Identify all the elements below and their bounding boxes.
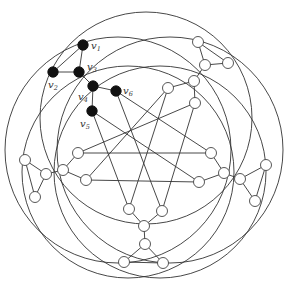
vertex-l2 [30,192,41,203]
vertex-l3 [41,169,52,180]
vertex-r4 [219,168,230,179]
vertex-l4 [58,165,69,176]
edge-t5-l6 [86,88,168,180]
edge-t5-b5 [129,88,168,209]
label-v5: v5 [80,118,90,131]
graph-diagram: v1v2v3v4v5v6 [0,0,293,300]
vertex-r3 [235,174,246,185]
vertex-l5 [73,148,84,159]
vertex-b1 [119,257,130,268]
vertex-t1 [193,37,204,48]
vertex-l6 [81,175,92,186]
vertex-t2 [223,58,234,69]
vertex-b4 [139,221,150,232]
vertex-v2 [48,67,58,77]
vertex-t4 [189,76,200,87]
label-v1: v1 [91,40,101,53]
label-v4: v4 [78,91,88,104]
enclosing-circle-1 [40,12,252,224]
label-v2: v2 [48,79,58,92]
vertex-b2 [158,258,169,269]
vertex-b6 [157,206,168,217]
vertex-t3 [200,60,211,71]
vertex-r2 [250,196,261,207]
edge-l6-r6 [86,180,199,182]
vertex-r6 [194,177,205,188]
edge-v5-b5 [92,111,129,209]
edge-v5-r6 [92,111,199,182]
vertex-l1 [20,155,31,166]
vertex-b3 [140,239,151,250]
vertex-v3 [74,67,84,77]
vertex-v4 [88,81,98,91]
vertex-b5 [124,204,135,215]
vertex-v6 [111,86,121,96]
vertex-t6 [190,98,201,109]
vertex-v5 [87,106,97,116]
vertex-r1 [261,160,272,171]
edge-t6-b6 [162,103,195,211]
vertex-v1 [78,40,88,50]
vertex-r5 [206,148,217,159]
vertex-t5 [163,83,174,94]
